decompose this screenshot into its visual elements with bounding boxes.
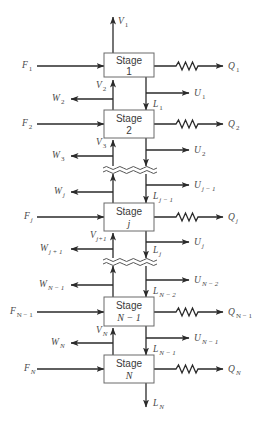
sidestream-label-un1: UN − 1 [194,333,218,346]
liquid-label-ln: LN [152,398,164,411]
heat-label-n: QN [228,364,241,377]
stage-label: Stage [116,113,143,124]
heat-lines [154,62,223,373]
vapor-label-v3: V3 [96,137,107,150]
heat-label-j: Qj [228,212,238,225]
stage-number: N [125,370,134,381]
vapor-label-v2: V2 [96,80,107,93]
liquid-label-ln1: LN − 1 [152,344,176,357]
zigzag-resistor-icon [154,213,223,221]
heat-labels: Q1 Q2 Qj QN − 1 QN [228,61,252,377]
stage-label: Stage [116,300,143,311]
sidestream-label-uj: Uj [194,237,204,250]
sidestream-label-wn1: WN − 1 [39,279,64,292]
stage-box-n-minus-1: Stage N − 1 [104,297,154,326]
feed-label-2: F2 [21,118,33,131]
stage-cascade-diagram: Stage 1 Stage 2 Stage j Stage N − 1 Stag… [0,0,266,422]
sidestream-label-wj: Wj [54,186,65,199]
sidestream-label-w2: W2 [52,93,65,106]
stage-label: Stage [116,358,143,369]
feed-label-1: F1 [21,60,33,73]
heat-label-1: Q1 [228,61,240,74]
stage-box-n: Stage N [104,355,154,383]
liquid-label-ln2: LN − 2 [152,286,176,299]
stage-number: 2 [126,125,132,136]
sidestream-label-wj1: Wj + 1 [40,243,63,256]
heat-label-2: Q2 [228,119,240,132]
zigzag-resistor-icon [154,365,223,373]
sidestream-label-wn: WN [51,337,65,350]
zigzag-resistor-icon [154,120,223,128]
sidestream-label-uj1: Uj − 1 [194,180,216,193]
stage-box-2: Stage 2 [104,110,154,138]
feed-label-j: Fj [23,211,33,224]
stage-number: 1 [126,66,132,77]
stage-number: N − 1 [116,312,140,323]
stage-box-j: Stage j [104,203,154,231]
stage-label: Stage [116,206,143,217]
stage-box-1: Stage 1 [104,53,154,77]
zigzag-resistor-icon [154,308,223,316]
liquid-labels: L1 Lj − 1 Lj LN − 2 LN − 1 LN [152,99,176,411]
feed-lines [37,66,104,369]
liquid-label-lj1: Lj − 1 [152,191,173,204]
wavy-break-icon [103,167,157,174]
sidestream-label-w3: W3 [52,150,65,163]
feed-label-n-minus-1: FN − 1 [9,306,33,319]
sidestream-label-un2: UN − 2 [194,275,219,288]
zigzag-resistor-icon [154,62,223,70]
sidestream-label-u1: U1 [194,88,206,101]
vapor-label-vj1: Vj+1 [90,230,106,243]
heat-label-n-minus-1: QN − 1 [228,307,252,320]
vapor-label-v1: V1 [118,16,129,29]
feed-labels: F1 F2 Fj FN − 1 FN [9,60,36,376]
liquid-label-lj: Lj [152,245,161,258]
feed-label-n: FN [23,363,36,376]
stage-label: Stage [116,55,143,66]
wavy-break-icon [103,259,157,266]
vapor-label-vn: VN [96,325,108,338]
sidestream-label-u2: U2 [194,145,206,158]
